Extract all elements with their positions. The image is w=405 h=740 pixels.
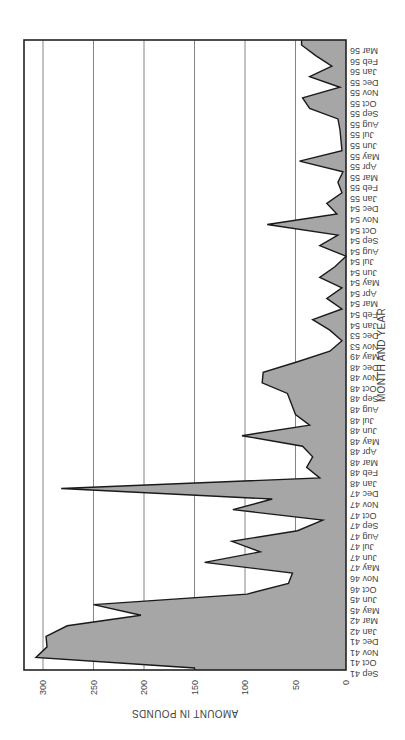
y-tick-label: 0 — [341, 680, 351, 685]
x-tick-label: Jul 54 — [350, 257, 374, 267]
x-tick-label: Dec 55 — [350, 78, 379, 88]
x-tick-label: Jun 48 — [350, 426, 377, 436]
x-tick-label: Jan 56 — [350, 67, 377, 77]
x-tick-label: Mar 42 — [350, 616, 378, 626]
x-tick-label: Oct 54 — [350, 226, 377, 236]
x-tick-label: Dec 48 — [350, 363, 379, 373]
x-tick-label: May 48 — [350, 437, 380, 447]
x-tick-label: Feb 55 — [350, 183, 378, 193]
area-chart: 050100150200250300 Sep 41Oct 41Nov 41Dec… — [0, 0, 405, 740]
x-tick-label: Nov 48 — [350, 373, 379, 383]
x-tick-label: Jan 54 — [350, 321, 377, 331]
x-tick-label: Oct 48 — [350, 384, 377, 394]
x-tick-label: Sep 47 — [350, 521, 379, 531]
x-tick-label: Mar 54 — [350, 299, 378, 309]
x-tick-label: Oct 47 — [350, 511, 377, 521]
x-tick-label: Jan 42 — [350, 627, 377, 637]
x-tick-label: Nov 41 — [350, 648, 379, 658]
x-tick-label: Oct 41 — [350, 658, 377, 668]
x-tick-label: Feb 56 — [350, 57, 378, 67]
x-tick-label: Sep 41 — [350, 669, 379, 679]
x-tick-label: Aug 47 — [350, 532, 379, 542]
x-tick-label: Dec 54 — [350, 204, 379, 214]
x-tick-label: Dec 53 — [350, 331, 379, 341]
x-tick-label: May 54 — [350, 278, 380, 288]
y-axis-ticks: 050100150200250300 — [38, 680, 351, 695]
x-tick-label: Aug 55 — [350, 120, 379, 130]
y-tick-label: 250 — [89, 680, 99, 695]
x-tick-label: Feb 54 — [350, 310, 378, 320]
x-tick-label: Nov 53 — [350, 342, 379, 352]
x-tick-label: Mar 56 — [350, 46, 378, 56]
x-tick-label: May 45 — [350, 606, 380, 616]
x-tick-label: Nov 47 — [350, 500, 379, 510]
x-tick-label: Jun 55 — [350, 141, 377, 151]
x-tick-label: Sep 48 — [350, 394, 379, 404]
x-tick-label: Jan 55 — [350, 194, 377, 204]
x-tick-label: Jul 55 — [350, 130, 374, 140]
x-tick-label: Nov 55 — [350, 88, 379, 98]
x-tick-label: May 47 — [350, 563, 380, 573]
y-tick-label: 150 — [190, 680, 200, 695]
x-tick-label: Jun 54 — [350, 268, 377, 278]
y-tick-label: 300 — [38, 680, 48, 695]
x-tick-label: Apr 55 — [350, 162, 377, 172]
x-tick-label: Apr 48 — [350, 447, 377, 457]
x-tick-label: Apr 54 — [350, 289, 377, 299]
y-tick-label: 200 — [139, 680, 149, 695]
x-tick-label: Mar 55 — [350, 173, 378, 183]
x-tick-label: Aug 48 — [350, 405, 379, 415]
x-tick-label: Feb 48 — [350, 468, 378, 478]
x-tick-label: Oct 46 — [350, 585, 377, 595]
x-tick-label: Nov 46 — [350, 574, 379, 584]
x-tick-label: Oct 55 — [350, 99, 377, 109]
y-tick-label: 50 — [291, 680, 301, 690]
y-axis-title: AMOUNT IN POUNDS — [132, 708, 238, 719]
x-tick-label: Aug 54 — [350, 247, 379, 257]
x-tick-label: Jun 47 — [350, 553, 377, 563]
x-tick-label: May 55 — [350, 152, 380, 162]
x-tick-label: Jan 48 — [350, 479, 377, 489]
x-tick-label: Sep 54 — [350, 236, 379, 246]
x-tick-label: Dec 41 — [350, 637, 379, 647]
x-tick-label: Sep 55 — [350, 109, 379, 119]
x-tick-label: Dec 47 — [350, 489, 379, 499]
x-tick-label: Nov 54 — [350, 215, 379, 225]
y-tick-label: 100 — [240, 680, 250, 695]
x-axis-title: MONTH AND YEAR — [376, 308, 387, 402]
x-tick-label: Jul 47 — [350, 542, 374, 552]
x-tick-label: Mar 48 — [350, 458, 378, 468]
x-tick-label: Jun 45 — [350, 595, 377, 605]
x-tick-label: Jul 48 — [350, 416, 374, 426]
